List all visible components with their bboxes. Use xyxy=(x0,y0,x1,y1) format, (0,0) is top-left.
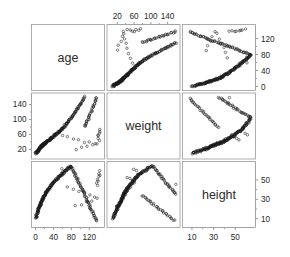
pairs-plot-svg: 2060100140040801202060100140103050040801… xyxy=(0,0,290,257)
panel-height-vs-height: height xyxy=(183,162,256,228)
tick-label: 20 xyxy=(113,12,123,21)
tick-label: 60 xyxy=(17,130,27,139)
diagonal-label-weight: weight xyxy=(124,119,162,133)
tick-label: 30 xyxy=(209,233,219,242)
panel-frame xyxy=(32,162,105,228)
tick-label: 120 xyxy=(82,233,96,242)
tick-label: 20 xyxy=(17,145,27,154)
tick-label: 0 xyxy=(33,233,38,242)
tick-label: 80 xyxy=(67,233,77,242)
diagonal-label-height: height xyxy=(202,188,237,202)
panel-weight-vs-height xyxy=(183,93,256,159)
panel-age-vs-height xyxy=(183,25,256,91)
tick-label: 30 xyxy=(261,195,271,204)
panels-layer: ageweightheight xyxy=(32,25,256,228)
tick-label: 80 xyxy=(261,51,271,60)
diagonal-label-age: age xyxy=(58,51,79,65)
panel-weight-vs-weight: weight xyxy=(107,93,180,159)
tick-label: 60 xyxy=(130,12,140,21)
tick-label: 50 xyxy=(261,176,271,185)
tick-label: 100 xyxy=(144,12,158,21)
tick-label: 140 xyxy=(161,12,175,21)
panel-height-vs-age xyxy=(32,162,105,228)
tick-label: 10 xyxy=(187,233,197,242)
tick-label: 0 xyxy=(261,83,266,92)
panel-age-vs-age: age xyxy=(32,25,105,91)
panel-age-vs-weight xyxy=(107,25,180,91)
tick-label: 50 xyxy=(231,233,241,242)
tick-label: 140 xyxy=(13,100,27,109)
tick-label: 40 xyxy=(49,233,59,242)
panel-height-vs-weight xyxy=(107,162,180,228)
tick-label: 40 xyxy=(261,67,271,76)
tick-label: 10 xyxy=(261,215,271,224)
scatterplot-matrix: 2060100140040801202060100140103050040801… xyxy=(0,0,290,257)
tick-label: 120 xyxy=(261,35,275,44)
tick-label: 100 xyxy=(13,115,27,124)
panel-weight-vs-age xyxy=(32,93,105,159)
